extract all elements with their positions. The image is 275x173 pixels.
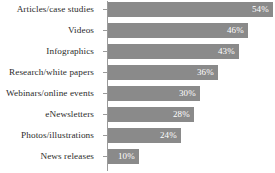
- bar-value-label: 46%: [227, 23, 244, 38]
- axis-tick: [103, 135, 107, 136]
- axis-tick: [103, 156, 107, 157]
- bar-value-label: 28%: [173, 107, 190, 122]
- category-label: eNewsletters: [0, 107, 94, 122]
- bar-row: Research/white papers 36%: [0, 65, 275, 80]
- bar-value-label: 30%: [179, 86, 196, 101]
- plot-area: Articles/case studies 54% Videos 46% Inf…: [0, 0, 275, 173]
- category-label: Research/white papers: [0, 65, 94, 80]
- category-label: Articles/case studies: [0, 2, 94, 17]
- bar-row: Videos 46%: [0, 23, 275, 38]
- bar-value-label: 54%: [252, 2, 269, 17]
- category-label: Infographics: [0, 44, 94, 59]
- axis-tick: [103, 9, 107, 10]
- axis-tick: [103, 72, 107, 73]
- category-label: News releases: [0, 149, 94, 164]
- bar-news-releases[interactable]: 10%: [108, 149, 139, 164]
- bar-webinars-online-events[interactable]: 30%: [108, 86, 200, 101]
- bar-articles-case-studies[interactable]: 54%: [108, 2, 273, 17]
- bar-value-label: 43%: [218, 44, 235, 59]
- bar-row: Infographics 43%: [0, 44, 275, 59]
- bar-infographics[interactable]: 43%: [108, 44, 239, 59]
- bar-videos[interactable]: 46%: [108, 23, 248, 38]
- category-label: Videos: [0, 23, 94, 38]
- axis-tick: [103, 30, 107, 31]
- bar-row: Photos/illustrations 24%: [0, 128, 275, 143]
- axis-tick: [103, 114, 107, 115]
- bar-row: eNewsletters 28%: [0, 107, 275, 122]
- bar-enewsletters[interactable]: 28%: [108, 107, 194, 122]
- bar-value-label: 10%: [118, 149, 135, 164]
- bar-row: Articles/case studies 54%: [0, 2, 275, 17]
- bar-value-label: 24%: [160, 128, 177, 143]
- bar-chart: Articles/case studies 54% Videos 46% Inf…: [0, 0, 275, 173]
- bar-photos-illustrations[interactable]: 24%: [108, 128, 181, 143]
- bar-row: News releases 10%: [0, 149, 275, 164]
- category-label: Webinars/online events: [0, 86, 94, 101]
- axis-tick: [103, 51, 107, 52]
- bar-research-white-papers[interactable]: 36%: [108, 65, 218, 80]
- bar-row: Webinars/online events 30%: [0, 86, 275, 101]
- axis-tick: [103, 93, 107, 94]
- category-label: Photos/illustrations: [0, 128, 94, 143]
- bar-value-label: 36%: [197, 65, 214, 80]
